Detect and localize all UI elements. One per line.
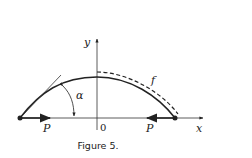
figure-diagram: y f α P 0 P x Figure 5. — [0, 0, 252, 158]
angle-label: α — [76, 89, 84, 102]
origin-label: 0 — [100, 122, 106, 133]
right-support-point — [173, 116, 178, 121]
left-support-point — [18, 116, 23, 121]
curve-label: f — [150, 74, 157, 87]
angle-arc — [63, 86, 74, 116]
force-label-left: P — [42, 122, 51, 135]
tangent-line — [20, 75, 61, 118]
x-axis-label: x — [196, 122, 203, 135]
figure-caption: Figure 5. — [77, 140, 118, 151]
force-label-right: P — [145, 122, 154, 135]
y-axis-label: y — [83, 36, 91, 49]
